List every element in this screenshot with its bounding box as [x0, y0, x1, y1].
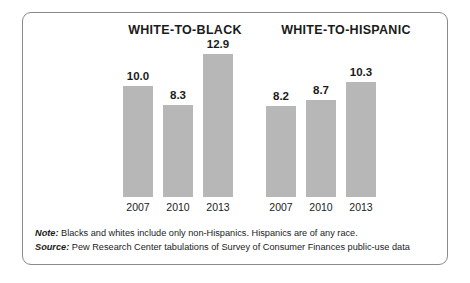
- note-label: Note:: [35, 228, 58, 238]
- bar-value-label: 10.3: [338, 66, 384, 78]
- group-title-white-to-hispanic: WHITE-TO-HISPANIC: [257, 23, 435, 37]
- source-label: Source:: [35, 242, 69, 252]
- bar-group-white-to-hispanic: 8.2 2007 8.7 2010 10.3 2013: [258, 41, 378, 197]
- bar[interactable]: [123, 86, 153, 197]
- bar-slot: 10.0 2007: [123, 41, 153, 197]
- note-text: Blacks and whites include only non-Hispa…: [61, 228, 358, 238]
- bar[interactable]: [346, 82, 376, 197]
- bar-value-label: 8.3: [155, 89, 201, 101]
- bar-value-label: 12.9: [195, 38, 241, 50]
- bar[interactable]: [306, 100, 336, 197]
- source-text: Pew Research Center tabulations of Surve…: [72, 242, 410, 252]
- chart-figure: WHITE-TO-BLACK WHITE-TO-HISPANIC 10.0 20…: [22, 12, 448, 265]
- group-title-white-to-black: WHITE-TO-BLACK: [105, 23, 265, 37]
- source-line: Source: Pew Research Center tabulations …: [35, 241, 435, 255]
- bar[interactable]: [203, 54, 233, 197]
- note-line: Note: Blacks and whites include only non…: [35, 227, 435, 241]
- bar-slot: 8.2 2007: [266, 41, 296, 197]
- bar-group-white-to-black: 10.0 2007 8.3 2010 12.9 2013: [115, 41, 235, 197]
- tick-label: 2013: [338, 201, 384, 213]
- footnotes: Note: Blacks and whites include only non…: [35, 227, 435, 254]
- bar[interactable]: [266, 106, 296, 197]
- bar-value-label: 10.0: [115, 70, 161, 82]
- bar-value-label: 8.7: [298, 84, 344, 96]
- bar[interactable]: [163, 105, 193, 197]
- bar-slot: 12.9 2013: [203, 41, 233, 197]
- bar-slot: 10.3 2013: [346, 41, 376, 197]
- tick-label: 2013: [195, 201, 241, 213]
- plot-area: 10.0 2007 8.3 2010 12.9 2013 8.2 2007: [23, 41, 449, 213]
- bar-slot: 8.3 2010: [163, 41, 193, 197]
- bar-slot: 8.7 2010: [306, 41, 336, 197]
